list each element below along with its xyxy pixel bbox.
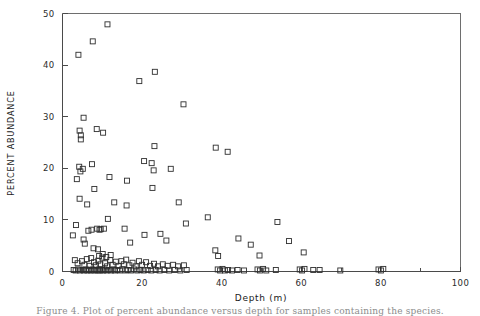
y-axis: 01020304050	[43, 9, 68, 277]
data-point	[81, 115, 86, 120]
data-point	[152, 69, 157, 74]
data-point	[122, 226, 127, 231]
data-point	[151, 168, 156, 173]
data-point	[213, 248, 218, 253]
data-point	[149, 161, 154, 166]
y-tick-label: 20	[43, 163, 55, 173]
data-point	[213, 145, 218, 150]
data-point	[160, 262, 165, 267]
data-point	[264, 268, 269, 273]
y-tick-label: 10	[43, 215, 55, 225]
data-point	[85, 202, 90, 207]
y-tick-label: 50	[43, 9, 55, 19]
data-point	[142, 232, 147, 237]
data-point	[107, 175, 112, 180]
x-axis-tick-labels: 020406080100	[60, 278, 470, 288]
figure-container: 020406080100 01020304050 Depth (m) PERCE…	[0, 0, 480, 316]
y-axis-ticks	[63, 14, 68, 272]
data-point	[338, 268, 343, 273]
data-point	[70, 233, 75, 238]
y-tick-label: 0	[49, 267, 55, 277]
data-point	[164, 238, 169, 243]
data-point	[301, 250, 306, 255]
data-point	[275, 219, 280, 224]
x-tick-label: 20	[136, 278, 148, 288]
figure-caption: Figure 4. Plot of percent abundance vers…	[0, 306, 480, 316]
data-point	[171, 262, 176, 267]
data-point	[225, 149, 230, 154]
data-point	[152, 144, 157, 149]
y-axis-tick-labels: 01020304050	[43, 9, 55, 277]
data-point	[76, 52, 81, 57]
data-point	[94, 127, 99, 132]
data-point	[142, 159, 147, 164]
plot-frame	[63, 14, 461, 272]
data-point	[216, 254, 221, 259]
data-point	[124, 178, 129, 183]
scatter-plot: 020406080100 01020304050 Depth (m) PERCE…	[0, 0, 480, 316]
data-point	[286, 239, 291, 244]
x-axis-title: Depth (m)	[235, 293, 287, 303]
data-point	[158, 231, 163, 236]
x-tick-label: 80	[375, 278, 387, 288]
data-point	[124, 203, 129, 208]
data-point	[236, 236, 241, 241]
data-point	[74, 223, 79, 228]
data-point	[136, 259, 141, 264]
data-point	[205, 215, 210, 220]
x-tick-label: 100	[452, 278, 469, 288]
x-tick-label: 60	[295, 278, 307, 288]
data-point	[168, 166, 173, 171]
data-point	[257, 253, 262, 258]
y-axis-title: PERCENT ABUNDANCE	[7, 90, 16, 195]
data-point	[101, 130, 106, 135]
y-tick-label: 40	[43, 60, 55, 70]
data-point	[89, 162, 94, 167]
y-tick-label: 30	[43, 112, 55, 122]
data-point	[181, 102, 186, 107]
data-point	[183, 221, 188, 226]
data-point	[92, 186, 97, 191]
data-point	[105, 22, 110, 27]
data-point	[241, 268, 246, 273]
data-point	[150, 185, 155, 190]
x-axis: 020406080100	[60, 267, 470, 288]
data-point	[128, 240, 133, 245]
data-point	[103, 261, 108, 266]
data-point	[112, 200, 117, 205]
x-tick-label: 0	[60, 278, 66, 288]
data-point	[90, 39, 95, 44]
data-point-markers	[70, 22, 385, 273]
data-point	[105, 216, 110, 221]
data-point	[248, 242, 253, 247]
data-point	[176, 200, 181, 205]
data-point	[77, 196, 82, 201]
data-point	[74, 177, 79, 182]
data-point	[137, 79, 142, 84]
x-tick-label: 40	[216, 278, 228, 288]
